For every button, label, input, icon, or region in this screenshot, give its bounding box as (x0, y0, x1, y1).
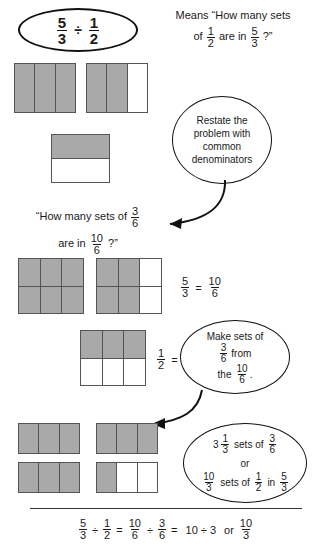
model-set-bar-4-partial (96, 462, 158, 493)
callout-restate-line-3: common (203, 140, 241, 153)
bar-cell (117, 424, 137, 453)
problem-divisor-denominator: 2 (89, 30, 99, 46)
bar-cell (19, 463, 39, 492)
model-one-half (51, 134, 110, 183)
means-line2-prefix: of (194, 30, 203, 42)
model-grid-ten-sixths-whole (18, 258, 84, 314)
callout-answer-three-sixths: 3 6 (269, 434, 277, 455)
bar-cell (138, 424, 157, 453)
callout-answer-line3-middle: sets of (220, 476, 249, 489)
equals-sign: = (195, 282, 201, 294)
callout-answer-line-3: 10 3 sets of 1 2 in 5 3 (201, 472, 289, 493)
grid-row (81, 331, 145, 359)
summary-fraction-3: 10 6 (128, 518, 142, 541)
summary-operator-2: ÷ (147, 524, 153, 536)
callout-restate-problem: Restate the problem with common denomina… (172, 96, 272, 184)
equation-five-thirds-equals-ten-sixths: 5 3 = 10 6 (180, 276, 223, 299)
restated-question-line-2: are in 10 6 ?” (8, 233, 168, 256)
callout-makesets-line-3: the 10 6 . (218, 364, 253, 385)
summary-word-or: or (224, 524, 234, 536)
summary-expression: 10 ÷ 3 (186, 524, 217, 536)
grid-row (19, 259, 83, 287)
bar-cell (39, 463, 59, 492)
problem-dividend-numerator: 5 (57, 15, 67, 30)
restated-question-text: “How many sets of 3 6 are in 10 6 ?” (8, 206, 168, 256)
equation-right-fraction: 10 6 (208, 276, 222, 299)
callout-answer-whole: 3 (213, 438, 219, 451)
callout-answer-ten-thirds: 10 3 (202, 472, 215, 493)
bar-cell (19, 424, 39, 453)
callout-answer-line1-middle: sets of (234, 438, 263, 451)
grid-row (19, 287, 83, 314)
callout-answer-five-thirds: 5 3 (280, 472, 288, 493)
model-bar-five-thirds-part (86, 63, 148, 113)
bar-cell (97, 424, 117, 453)
grid-cell (62, 259, 83, 286)
means-five-thirds-fraction: 5 3 (251, 26, 259, 49)
summary-fraction-4: 3 6 (158, 518, 166, 541)
callout-answer-word-in: in (267, 476, 275, 489)
grid-cell (97, 287, 119, 314)
restated-line2-prefix: are in (58, 237, 86, 249)
means-line2-middle: are in (219, 30, 247, 42)
bar-cell (138, 463, 157, 492)
means-half-fraction: 1 2 (207, 26, 215, 49)
problem-division-operator: ÷ (74, 22, 82, 38)
means-line2-end: ?” (263, 30, 273, 42)
summary-fraction-1: 5 3 (79, 518, 87, 541)
bar-cell (87, 64, 107, 112)
problem-divisor-numerator: 1 (89, 15, 99, 30)
grid-row (97, 259, 161, 287)
grid-cell (124, 359, 145, 386)
bar-cell (117, 463, 137, 492)
bar-cell (15, 64, 35, 112)
model-set-bar-2 (96, 423, 158, 454)
callout-restate-line-1: Restate the (196, 114, 247, 127)
callout-answer-line-1: 3 1 3 sets of 3 6 (213, 434, 277, 455)
grid-cell (103, 359, 125, 386)
grid-row (52, 135, 109, 159)
callout-restate-line-2: problem with (194, 127, 251, 140)
bar-cell (39, 424, 59, 453)
restated-line1-prefix: “How many sets of (36, 210, 127, 222)
problem-dividend-denominator: 3 (57, 30, 67, 46)
callout-make-sets: Make sets of 3 6 from the 10 6 . (180, 320, 290, 394)
bar-cell (35, 64, 55, 112)
grid-cell (103, 331, 125, 358)
summary-divider-rule (30, 508, 302, 509)
equation-left-fraction: 5 3 (181, 276, 189, 299)
bar-cell (97, 463, 117, 492)
grid-cell (19, 259, 41, 286)
callout-makesets-line-2: 3 6 from (219, 343, 252, 364)
model-set-bar-1 (18, 423, 80, 454)
summary-equals-1: = (116, 524, 122, 536)
summary-fraction-2: 1 2 (103, 518, 111, 541)
callout-answer-one-half: 1 2 (255, 472, 263, 493)
grid-cell (62, 287, 83, 314)
callout-answer: 3 1 3 sets of 3 6 or 10 3 sets of 1 2 in… (183, 423, 307, 503)
bar-cell (128, 64, 147, 112)
callout-restate-line-4: denominators (192, 153, 253, 166)
grid-cell (119, 259, 141, 286)
bar-cell (56, 64, 75, 112)
grid-cell (41, 259, 63, 286)
model-set-bar-3 (18, 462, 80, 493)
grid-row (97, 287, 161, 314)
means-line-2: of 1 2 are in 5 3 ?” (158, 26, 308, 49)
callout-answer-or: or (241, 457, 250, 470)
callout-makesets-word-the: the (218, 368, 232, 381)
means-explanation-text: Means “How many sets of 1 2 are in 5 3 ?… (158, 8, 308, 49)
equation-left-fraction: 1 2 (157, 348, 165, 371)
bar-cell (60, 424, 79, 453)
restated-three-sixths-fraction: 3 6 (131, 206, 139, 229)
callout-makesets-word-from: from (231, 347, 251, 360)
callout-makesets-ten-sixths: 10 6 (236, 364, 249, 385)
grid-cell (140, 259, 161, 286)
grid-cell (119, 287, 141, 314)
model-grid-ten-sixths-part (96, 258, 162, 314)
callout-makesets-line-1: Make sets of (207, 330, 264, 343)
grid-cell (124, 331, 145, 358)
model-grid-three-sixths (80, 330, 146, 386)
problem-statement-oval: 5 3 ÷ 1 2 (18, 8, 138, 52)
grid-cell (52, 135, 109, 158)
